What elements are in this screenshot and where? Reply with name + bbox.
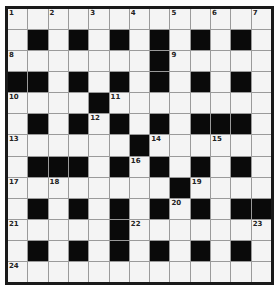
crossword-cell[interactable]: 20	[170, 199, 189, 219]
crossword-cell[interactable]: 13	[8, 135, 27, 155]
crossword-cell[interactable]: 21	[8, 220, 27, 240]
crossword-cell[interactable]	[170, 157, 189, 177]
crossword-cell[interactable]	[252, 93, 271, 113]
crossword-cell[interactable]: 11	[110, 93, 129, 113]
crossword-cell[interactable]: 24	[8, 262, 27, 282]
crossword-cell[interactable]	[130, 241, 149, 261]
crossword-cell[interactable]	[110, 262, 129, 282]
crossword-cell[interactable]	[191, 220, 210, 240]
crossword-cell[interactable]: 15	[211, 135, 230, 155]
crossword-cell[interactable]: 9	[170, 51, 189, 71]
crossword-cell[interactable]	[150, 93, 169, 113]
crossword-cell[interactable]	[49, 114, 68, 134]
crossword-cell[interactable]	[252, 157, 271, 177]
crossword-cell[interactable]	[8, 30, 27, 50]
crossword-cell[interactable]	[130, 51, 149, 71]
crossword-cell[interactable]	[89, 241, 108, 261]
crossword-cell[interactable]	[49, 51, 68, 71]
crossword-cell[interactable]	[28, 9, 47, 29]
crossword-cell[interactable]	[150, 220, 169, 240]
crossword-cell[interactable]	[170, 30, 189, 50]
crossword-cell[interactable]: 3	[89, 9, 108, 29]
crossword-cell[interactable]	[89, 30, 108, 50]
crossword-cell[interactable]	[231, 220, 250, 240]
crossword-cell[interactable]: 6	[211, 9, 230, 29]
crossword-cell[interactable]	[69, 262, 88, 282]
crossword-cell[interactable]: 2	[49, 9, 68, 29]
crossword-cell[interactable]: 14	[150, 135, 169, 155]
crossword-cell[interactable]	[191, 51, 210, 71]
crossword-cell[interactable]	[191, 93, 210, 113]
crossword-cell[interactable]: 7	[252, 9, 271, 29]
crossword-cell[interactable]	[252, 262, 271, 282]
crossword-cell[interactable]	[170, 72, 189, 92]
crossword-cell[interactable]: 19	[191, 178, 210, 198]
crossword-cell[interactable]	[49, 93, 68, 113]
crossword-cell[interactable]	[130, 114, 149, 134]
crossword-cell[interactable]	[130, 93, 149, 113]
crossword-cell[interactable]	[28, 93, 47, 113]
crossword-cell[interactable]	[49, 30, 68, 50]
crossword-cell[interactable]	[252, 30, 271, 50]
crossword-cell[interactable]	[89, 51, 108, 71]
crossword-cell[interactable]	[191, 9, 210, 29]
crossword-cell[interactable]	[211, 178, 230, 198]
crossword-cell[interactable]: 23	[252, 220, 271, 240]
crossword-cell[interactable]	[170, 135, 189, 155]
crossword-cell[interactable]	[8, 199, 27, 219]
crossword-cell[interactable]	[89, 199, 108, 219]
crossword-cell[interactable]	[211, 157, 230, 177]
crossword-cell[interactable]	[170, 262, 189, 282]
crossword-cell[interactable]	[211, 30, 230, 50]
crossword-cell[interactable]	[170, 114, 189, 134]
crossword-cell[interactable]: 4	[130, 9, 149, 29]
crossword-cell[interactable]	[231, 93, 250, 113]
crossword-cell[interactable]	[69, 9, 88, 29]
crossword-cell[interactable]	[252, 241, 271, 261]
crossword-cell[interactable]	[49, 262, 68, 282]
crossword-cell[interactable]	[231, 135, 250, 155]
crossword-cell[interactable]	[170, 220, 189, 240]
crossword-cell[interactable]	[170, 93, 189, 113]
crossword-cell[interactable]	[211, 93, 230, 113]
crossword-cell[interactable]: 22	[130, 220, 149, 240]
crossword-cell[interactable]	[110, 51, 129, 71]
crossword-cell[interactable]	[28, 178, 47, 198]
crossword-cell[interactable]	[69, 220, 88, 240]
crossword-cell[interactable]	[170, 241, 189, 261]
crossword-cell[interactable]	[252, 114, 271, 134]
crossword-cell[interactable]	[231, 51, 250, 71]
crossword-cell[interactable]	[150, 262, 169, 282]
crossword-cell[interactable]	[211, 51, 230, 71]
crossword-cell[interactable]	[69, 51, 88, 71]
crossword-cell[interactable]	[110, 9, 129, 29]
crossword-cell[interactable]	[8, 114, 27, 134]
crossword-cell[interactable]	[211, 220, 230, 240]
crossword-cell[interactable]	[8, 157, 27, 177]
crossword-cell[interactable]: 1	[8, 9, 27, 29]
crossword-cell[interactable]: 16	[130, 157, 149, 177]
crossword-cell[interactable]	[231, 9, 250, 29]
crossword-cell[interactable]	[252, 178, 271, 198]
crossword-cell[interactable]	[28, 135, 47, 155]
crossword-cell[interactable]	[211, 199, 230, 219]
crossword-cell[interactable]	[211, 241, 230, 261]
crossword-cell[interactable]	[252, 72, 271, 92]
crossword-cell[interactable]	[89, 220, 108, 240]
crossword-cell[interactable]	[130, 30, 149, 50]
crossword-cell[interactable]	[89, 178, 108, 198]
crossword-cell[interactable]	[150, 178, 169, 198]
crossword-cell[interactable]	[110, 178, 129, 198]
crossword-cell[interactable]: 12	[89, 114, 108, 134]
crossword-cell[interactable]	[231, 262, 250, 282]
crossword-cell[interactable]	[211, 72, 230, 92]
crossword-cell[interactable]	[28, 262, 47, 282]
crossword-cell[interactable]: 17	[8, 178, 27, 198]
crossword-cell[interactable]	[89, 72, 108, 92]
crossword-cell[interactable]	[49, 220, 68, 240]
crossword-cell[interactable]	[252, 51, 271, 71]
crossword-cell[interactable]	[89, 262, 108, 282]
crossword-cell[interactable]	[191, 262, 210, 282]
crossword-cell[interactable]	[28, 220, 47, 240]
crossword-cell[interactable]: 10	[8, 93, 27, 113]
